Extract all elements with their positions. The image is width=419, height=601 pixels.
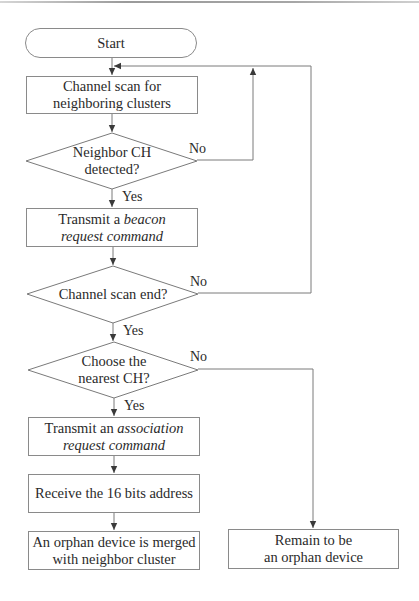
process-merged-line1: An orphan device is merged [32, 534, 195, 551]
process-remain-line2: an orphan device [264, 549, 363, 566]
process-transmit-association: Transmit an association request command [28, 417, 200, 456]
edge-label-choose-no: No [190, 349, 207, 365]
decision-choose-line1: Choose the [78, 353, 149, 370]
decision-neighbor-line1: Neighbor CH [73, 144, 152, 161]
process-association-italic: association [117, 420, 183, 436]
process-merged-line2: with neighbor cluster [32, 551, 195, 568]
process-orphan-merged: An orphan device is merged with neighbor… [28, 531, 200, 570]
process-channel-scan-line1: Channel scan for [53, 78, 171, 95]
process-association-line2: request command [63, 437, 165, 453]
decision-choose-line2: nearest CH? [78, 370, 149, 387]
decision-scan-end-label: Channel scan end? [59, 286, 168, 303]
process-beacon-line1: Transmit a beacon [58, 211, 165, 228]
edge-label-neighbor-yes: Yes [122, 189, 142, 205]
edge-label-scan-end-no: No [190, 274, 207, 290]
decision-neighbor-line2: detected? [73, 161, 152, 178]
process-channel-scan-line2: neighboring clusters [53, 95, 171, 112]
process-beacon-italic: beacon [124, 211, 166, 227]
start-terminal: Start [25, 28, 197, 58]
process-transmit-beacon: Transmit a beacon request command [26, 208, 198, 247]
process-beacon-line2: request command [61, 228, 163, 244]
process-remain-line1: Remain to be [264, 532, 363, 549]
process-receive-address: Receive the 16 bits address [28, 474, 200, 513]
start-label: Start [97, 35, 124, 52]
process-association-line1: Transmit an association [45, 420, 184, 437]
process-channel-scan: Channel scan for neighboring clusters [26, 76, 198, 114]
decision-choose-nearest: Choose the nearest CH? [60, 353, 168, 387]
decision-channel-scan-end: Channel scan end? [48, 285, 178, 303]
edge-label-choose-yes: Yes [124, 398, 144, 414]
process-receive-address-label: Receive the 16 bits address [35, 485, 193, 502]
decision-neighbor-detected: Neighbor CH detected? [56, 144, 168, 178]
edge-label-scan-end-yes: Yes [123, 323, 143, 339]
process-remain-orphan: Remain to be an orphan device [228, 529, 399, 569]
edge-label-neighbor-no: No [189, 141, 206, 157]
